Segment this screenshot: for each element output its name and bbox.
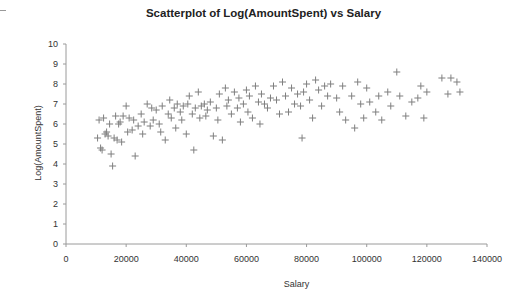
x-tick-label: 20000 <box>114 254 139 264</box>
data-point-plus-marker <box>147 123 154 130</box>
y-tick-label: 9 <box>53 59 58 69</box>
data-point-plus-marker <box>351 125 358 132</box>
data-point-plus-marker <box>123 103 130 110</box>
data-point-plus-marker <box>276 111 283 118</box>
data-point-plus-marker <box>166 97 173 104</box>
data-point-plus-marker <box>223 103 230 110</box>
scatter-plot-area: 0123456789100200004000060000800001000001… <box>0 0 527 295</box>
data-point-plus-marker <box>306 97 313 104</box>
data-point-plus-marker <box>219 137 226 144</box>
x-tick-label: 120000 <box>412 254 442 264</box>
y-tick-label: 2 <box>53 199 58 209</box>
data-point-plus-marker <box>135 123 142 130</box>
x-tick-label: 80000 <box>294 254 319 264</box>
data-point-plus-marker <box>261 101 268 108</box>
data-point-plus-marker <box>321 83 328 90</box>
data-point-plus-marker <box>228 111 235 118</box>
x-tick-label: 40000 <box>174 254 199 264</box>
data-point-plus-marker <box>360 115 367 122</box>
data-point-plus-marker <box>270 83 277 90</box>
data-point-plus-marker <box>348 93 355 100</box>
data-point-plus-marker <box>291 101 298 108</box>
data-point-plus-marker <box>225 97 232 104</box>
data-point-plus-marker <box>438 75 445 82</box>
data-point-plus-marker <box>303 81 310 88</box>
data-point-plus-marker <box>378 117 385 124</box>
data-point-plus-marker <box>150 117 157 124</box>
data-point-plus-marker <box>157 129 164 136</box>
data-point-plus-marker <box>408 99 415 106</box>
data-point-plus-marker <box>204 107 211 114</box>
x-tick-label: 140000 <box>472 254 502 264</box>
data-point-plus-marker <box>444 91 451 98</box>
data-point-plus-marker <box>120 113 127 120</box>
data-point-plus-marker <box>213 105 220 112</box>
data-point-plus-marker <box>324 93 331 100</box>
data-point-plus-marker <box>183 131 190 138</box>
data-point-plus-marker <box>141 119 148 126</box>
data-point-plus-marker <box>195 89 202 96</box>
data-point-plus-marker <box>190 147 197 154</box>
data-point-plus-marker <box>288 85 295 92</box>
data-point-plus-marker <box>172 125 179 132</box>
data-point-plus-marker <box>144 101 151 108</box>
axes: 0123456789100200004000060000800001000001… <box>48 39 502 264</box>
data-point-plus-marker <box>178 117 185 124</box>
data-point-plus-marker <box>264 105 271 112</box>
data-point-plus-marker <box>112 113 119 120</box>
data-point-plus-marker <box>258 91 265 98</box>
data-point-plus-marker <box>342 117 349 124</box>
data-point-plus-marker <box>402 113 409 120</box>
data-point-plus-marker <box>106 121 113 128</box>
data-point-plus-marker <box>456 89 463 96</box>
data-point-plus-marker <box>420 115 427 122</box>
data-point-plus-marker <box>299 135 306 142</box>
y-tick-label: 4 <box>53 159 58 169</box>
data-point-plus-marker <box>414 95 421 102</box>
data-point-plus-marker <box>423 89 430 96</box>
y-tick-label: 5 <box>53 139 58 149</box>
data-point-plus-marker <box>297 103 304 110</box>
data-point-plus-marker <box>249 115 256 122</box>
data-point-plus-marker <box>396 93 403 100</box>
data-point-plus-marker <box>214 117 221 124</box>
data-point-plus-marker <box>240 101 247 108</box>
data-point-plus-marker <box>354 79 361 86</box>
data-point-plus-marker <box>318 103 325 110</box>
data-point-plus-marker <box>417 83 424 90</box>
y-tick-label: 8 <box>53 79 58 89</box>
x-tick-label: 100000 <box>352 254 382 264</box>
data-point-plus-marker <box>94 135 101 142</box>
data-point-plus-marker <box>165 111 172 118</box>
data-point-plus-marker <box>285 109 292 116</box>
data-point-plus-marker <box>202 113 209 120</box>
data-point-plus-marker <box>393 69 400 76</box>
data-point-plus-marker <box>156 121 163 128</box>
x-tick-label: 60000 <box>234 254 259 264</box>
data-point-plus-marker <box>333 95 340 102</box>
data-point-plus-marker <box>243 87 250 94</box>
data-point-plus-marker <box>327 81 334 88</box>
data-point-plus-marker <box>189 111 196 118</box>
data-point-plus-marker <box>132 153 139 160</box>
data-point-plus-marker <box>453 79 460 86</box>
data-point-plus-marker <box>282 93 289 100</box>
data-point-plus-marker <box>109 163 116 170</box>
y-tick-label: 0 <box>53 239 58 249</box>
data-point-plus-marker <box>139 131 146 138</box>
data-point-plus-marker <box>159 103 166 110</box>
y-tick-label: 7 <box>53 99 58 109</box>
data-point-plus-marker <box>235 95 242 102</box>
data-point-plus-marker <box>267 95 274 102</box>
data-point-plus-marker <box>162 137 169 144</box>
x-tick-label: 0 <box>63 254 68 264</box>
data-point-plus-marker <box>339 83 346 90</box>
data-point-plus-marker <box>357 101 364 108</box>
data-point-plus-marker <box>447 75 454 82</box>
data-point-plus-marker <box>246 93 253 100</box>
data-point-plus-marker <box>171 105 178 112</box>
y-tick-label: 10 <box>48 39 58 49</box>
data-point-plus-marker <box>138 111 145 118</box>
data-point-plus-marker <box>294 91 301 98</box>
data-point-plus-marker <box>177 109 184 116</box>
